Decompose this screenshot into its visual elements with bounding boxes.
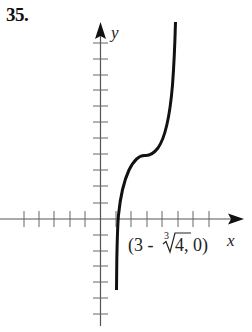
label-close: , 0) [184, 235, 208, 256]
svg-text:(3 -: (3 - [128, 235, 154, 256]
root-index: 3 [164, 230, 169, 241]
radicand: 4 [175, 235, 184, 255]
x-intercept-label: (3 - 3 4, 0) [128, 230, 208, 256]
x-axis-label: x [226, 231, 235, 250]
graph: y x (3 - 3 4, 0) [0, 0, 252, 332]
label-open: (3 - [128, 235, 154, 256]
y-axis-label: y [109, 23, 119, 42]
svg-text:4, 0): 4, 0) [175, 235, 208, 256]
